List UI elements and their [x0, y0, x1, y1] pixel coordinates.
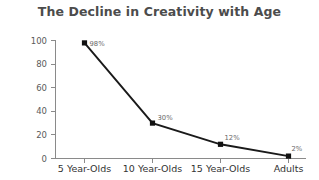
data-point-label: 2%: [292, 145, 303, 153]
x-category-label: 15 Year-Olds: [191, 163, 250, 174]
data-point-labels: 98% 30% 12% 2%: [90, 40, 303, 153]
x-axis-labels: 5 Year-Olds 10 Year-Olds 15 Year-Olds Ad…: [58, 163, 304, 174]
data-point-marker: [150, 121, 155, 126]
creativity-series-line: [85, 43, 289, 156]
data-point-marker: [82, 40, 87, 45]
y-tick-label: 20: [36, 130, 47, 140]
x-category-label: Adults: [274, 163, 304, 174]
y-axis-labels: 100 80 60 40 20 0: [31, 36, 47, 164]
data-point-label: 12%: [225, 134, 241, 142]
data-point-marker: [286, 154, 291, 159]
data-point-marker: [218, 142, 223, 147]
x-category-label: 10 Year-Olds: [123, 163, 182, 174]
x-category-label: 5 Year-Olds: [58, 163, 111, 174]
y-tick-label: 40: [36, 106, 47, 116]
creativity-series-markers: [82, 40, 291, 158]
y-axis-ticks: [51, 41, 56, 159]
y-tick-label: 80: [36, 59, 47, 69]
creativity-decline-chart: The Decline in Creativity with Age 100 8…: [0, 0, 319, 180]
y-tick-label: 60: [36, 83, 47, 93]
data-point-label: 98%: [90, 40, 106, 48]
x-axis-ticks: [85, 159, 289, 163]
y-tick-label: 100: [31, 36, 47, 46]
chart-plot-area: 100 80 60 40 20 0 5 Year-Olds 10 Year-Ol…: [0, 0, 319, 180]
data-point-label: 30%: [158, 114, 174, 122]
y-tick-label: 0: [42, 154, 47, 164]
